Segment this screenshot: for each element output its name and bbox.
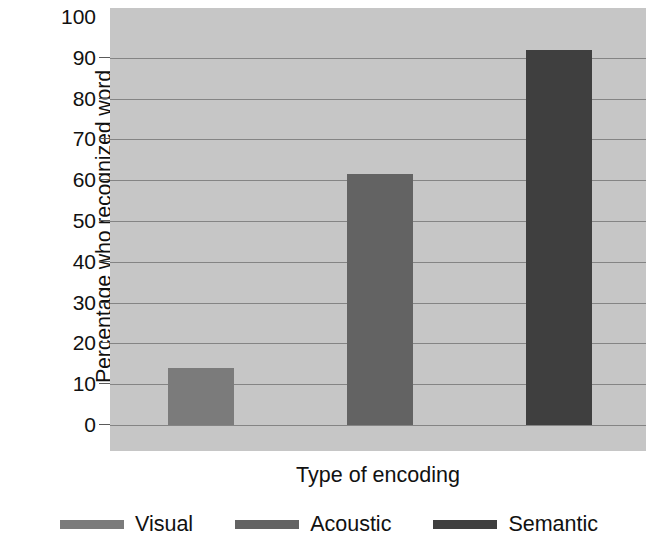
y-tick-label: 50	[34, 210, 96, 231]
y-tick-label: 100	[34, 6, 96, 27]
legend-item-semantic: Semantic	[433, 512, 598, 537]
legend-label: Visual	[135, 512, 193, 537]
y-tick-label: 80	[34, 88, 96, 109]
plot-area	[110, 8, 646, 451]
legend-label: Acoustic	[310, 512, 391, 537]
legend-swatch-icon	[433, 520, 497, 529]
y-tick-mark	[99, 179, 110, 180]
y-tick-label: 70	[34, 128, 96, 149]
legend-label: Semantic	[508, 512, 598, 537]
y-tick-mark	[99, 383, 110, 384]
y-tick-mark	[99, 342, 110, 343]
y-tick-label: 60	[34, 169, 96, 190]
y-tick-label: 30	[34, 292, 96, 313]
y-tick-mark	[99, 302, 110, 303]
y-tick-mark	[99, 261, 110, 262]
y-tick-mark	[99, 57, 110, 58]
y-axis-ticks: 0102030405060708090100	[34, 0, 96, 456]
y-tick-mark	[99, 138, 110, 139]
legend-swatch-icon	[60, 520, 124, 529]
bar-chart: Percentage who recognized word 010203040…	[0, 0, 658, 546]
y-tick-label: 40	[34, 251, 96, 272]
y-tick-label: 20	[34, 332, 96, 353]
bar-visual	[168, 368, 234, 425]
y-tick-mark	[99, 98, 110, 99]
chart-legend: VisualAcousticSemantic	[0, 512, 658, 537]
y-tick-mark	[99, 424, 110, 425]
y-tick-label: 10	[34, 373, 96, 394]
y-tick-label: 0	[34, 414, 96, 435]
legend-item-visual: Visual	[60, 512, 193, 537]
legend-item-acoustic: Acoustic	[235, 512, 391, 537]
bar-acoustic	[347, 174, 413, 425]
legend-swatch-icon	[235, 520, 299, 529]
bar-semantic	[526, 50, 592, 425]
x-axis-title: Type of encoding	[110, 463, 646, 488]
bars-layer	[110, 8, 646, 451]
y-tick-mark	[99, 220, 110, 221]
y-tick-label: 90	[34, 47, 96, 68]
